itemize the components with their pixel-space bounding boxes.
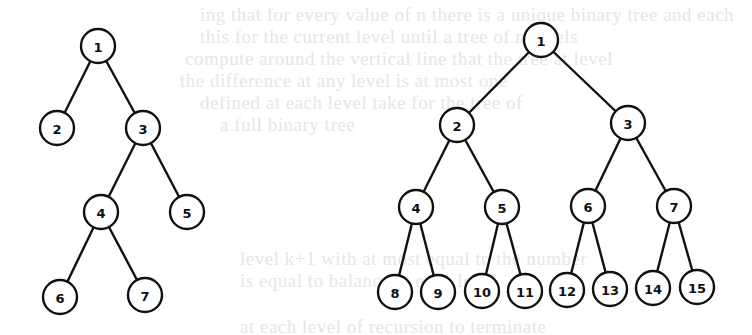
tree-node-5: 5 [485,190,519,224]
node-label: 14 [644,282,662,297]
tree-node-15: 15 [680,270,714,304]
tree-node-9: 9 [421,275,455,309]
node-label: 13 [601,283,619,298]
tree-node-10: 10 [465,274,499,308]
node-label: 5 [182,206,191,221]
node-label: 3 [623,117,632,132]
node-label: 7 [140,289,149,304]
node-label: 11 [516,285,534,300]
node-label: 6 [55,291,64,306]
node-label: 4 [411,201,420,216]
tree-node-3: 3 [126,111,160,145]
node-label: 6 [583,200,592,215]
node-label: 1 [536,34,545,49]
tree-node-6: 6 [43,280,77,314]
tree-node-8: 8 [378,275,412,309]
node-label: 2 [452,119,461,134]
node-label: 15 [688,281,706,296]
tree-node-13: 13 [593,272,627,306]
tree-node-4: 4 [84,195,118,229]
right-tree: 123456789101112131415 [378,23,714,309]
tree-node-2: 2 [440,108,474,142]
tree-node-12: 12 [550,273,584,307]
tree-node-1: 1 [524,23,558,57]
node-label: 3 [138,122,147,137]
node-label: 5 [497,201,506,216]
tree-node-14: 14 [636,271,670,305]
node-label: 4 [96,206,105,221]
tree-node-7: 7 [657,189,691,223]
node-label: 2 [52,122,61,137]
node-label: 8 [390,286,399,301]
tree-node-3: 3 [611,106,645,140]
tree-node-6: 6 [571,189,605,223]
node-label: 1 [93,40,102,55]
tree-node-2: 2 [40,111,74,145]
tree-node-7: 7 [128,278,162,312]
tree-node-1: 1 [81,29,115,63]
node-label: 10 [473,285,491,300]
tree-node-11: 11 [508,274,542,308]
tree-node-5: 5 [170,195,204,229]
node-label: 9 [433,286,442,301]
node-label: 12 [558,284,576,299]
node-label: 7 [669,200,678,215]
left-tree: 1234567 [40,29,204,314]
tree-node-4: 4 [399,190,433,224]
binary-tree-diagram: 1234567 123456789101112131415 [0,0,752,335]
